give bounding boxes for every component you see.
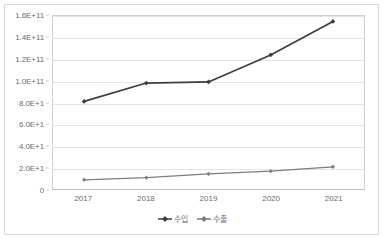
- y-tick-mark: [46, 80, 49, 81]
- x-tick-label: 2020: [262, 194, 280, 203]
- y-tick-mark: [46, 36, 49, 37]
- legend-item-2[interactable]: 수출: [197, 213, 227, 224]
- y-tick-label: 1.6E+11: [15, 11, 44, 20]
- chart-card: 1.6E+111.4E+111.2E+111.0E+118.0E+16.0E+1…: [4, 4, 379, 235]
- series-line: [84, 21, 333, 101]
- legend-label: 수출: [213, 213, 227, 224]
- y-tick-mark: [46, 190, 49, 191]
- legend-marker-icon: [197, 215, 211, 223]
- y-tick-mark: [46, 102, 49, 103]
- data-point-marker: [331, 165, 335, 169]
- series-2: [82, 165, 335, 182]
- legend-item-1[interactable]: 수입: [158, 213, 188, 224]
- y-tick-mark: [46, 168, 49, 169]
- x-tick-label: 2021: [325, 194, 343, 203]
- y-axis: 1.6E+111.4E+111.2E+111.0E+118.0E+16.0E+1…: [5, 15, 49, 190]
- series-layer: [53, 16, 364, 189]
- chart-legend: 수입수출: [5, 213, 380, 224]
- series-1: [82, 19, 336, 104]
- y-tick-label: 6.0E+1: [19, 120, 44, 129]
- y-tick-mark: [46, 15, 49, 16]
- x-axis: 20172018201920202021: [52, 194, 365, 208]
- data-point-marker: [269, 169, 273, 173]
- data-point-marker: [206, 80, 211, 85]
- y-tick-label: 8.0E+1: [19, 98, 44, 107]
- y-tick-label: 1.0E+11: [15, 76, 44, 85]
- plot-area: [52, 15, 365, 190]
- data-point-marker: [82, 99, 87, 104]
- data-point-marker: [144, 81, 149, 86]
- data-point-marker: [82, 178, 86, 182]
- y-tick-mark: [46, 146, 49, 147]
- x-tick-label: 2017: [74, 194, 92, 203]
- y-tick-label: 4.0E+1: [19, 142, 44, 151]
- y-tick-label: 2.0E+1: [19, 164, 44, 173]
- legend-label: 수입: [174, 213, 188, 224]
- y-tick-mark: [46, 124, 49, 125]
- x-tick-label: 2019: [200, 194, 218, 203]
- data-point-marker: [144, 176, 148, 180]
- y-tick-label: 1.2E+11: [15, 54, 44, 63]
- y-tick-label: 0: [40, 186, 44, 195]
- legend-marker-icon: [158, 215, 172, 223]
- x-tick-label: 2018: [137, 194, 155, 203]
- data-point-marker: [206, 172, 210, 176]
- y-tick-label: 1.4E+11: [15, 32, 44, 41]
- y-tick-mark: [46, 58, 49, 59]
